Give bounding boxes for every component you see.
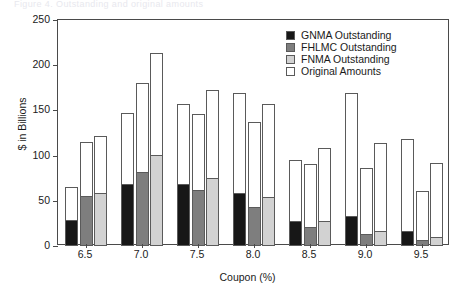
legend-item-orig: Original Amounts	[286, 66, 452, 78]
bar-fill-outstanding	[81, 196, 92, 245]
legend-item-gnma: GNMA Outstanding	[286, 29, 452, 41]
bar-fnma-7.0	[150, 53, 163, 246]
bar-fill-outstanding	[193, 190, 204, 245]
chart-legend: GNMA OutstandingFHLMC OutstandingFNMA Ou…	[286, 29, 452, 78]
bar-fill-outstanding	[178, 184, 189, 245]
x-axis-label: Coupon (%)	[45, 271, 450, 283]
bar-gnma-8.0	[233, 93, 246, 246]
bar-gnma-9.5	[401, 139, 414, 246]
bar-fill-outstanding	[122, 184, 133, 245]
y-axis-tick	[53, 156, 58, 157]
legend-swatch-icon	[286, 43, 295, 52]
bar-gnma-6.5	[65, 187, 78, 246]
bar-fill-outstanding	[346, 216, 357, 245]
legend-item-label: Original Amounts	[301, 66, 381, 77]
bar-fill-outstanding	[249, 207, 260, 245]
bar-fhlmc-6.5	[80, 142, 93, 246]
x-axis-tick-label: 8.5	[286, 249, 332, 260]
legend-item-label: FNMA Outstanding	[301, 54, 390, 65]
x-axis-tick-label: 9.5	[398, 249, 444, 260]
bar-fnma-9.0	[374, 143, 387, 246]
bar-fill-outstanding	[375, 231, 386, 245]
bar-fill-outstanding	[305, 227, 316, 245]
bar-fhlmc-7.5	[192, 114, 205, 246]
y-axis-label: $ in Billions	[16, 59, 28, 189]
legend-item-label: FHLMC Outstanding	[301, 42, 397, 53]
bar-gnma-7.5	[177, 104, 190, 246]
legend-swatch-icon	[286, 31, 295, 40]
bar-fill-outstanding	[431, 237, 442, 245]
bar-fhlmc-9.5	[416, 191, 429, 246]
y-axis-tick-label: 100	[8, 150, 50, 160]
y-axis-tick	[53, 246, 58, 247]
x-axis-tick-label: 7.0	[118, 249, 164, 260]
bar-chart-figure: Figure 4. Outstanding and original amoun…	[0, 0, 456, 293]
y-axis-tick	[53, 110, 58, 111]
bar-fhlmc-9.0	[360, 168, 373, 246]
bar-fnma-7.5	[206, 90, 219, 246]
bar-fnma-6.5	[94, 136, 107, 246]
bar-fnma-9.5	[430, 163, 443, 246]
x-axis-tick-label: 6.5	[62, 249, 108, 260]
y-axis-tick-label: 150	[8, 104, 50, 114]
bar-gnma-8.5	[289, 160, 302, 246]
bar-fill-outstanding	[95, 193, 106, 245]
bar-fnma-8.5	[318, 148, 331, 246]
bar-fhlmc-7.0	[136, 83, 149, 246]
bar-fnma-8.0	[262, 104, 275, 246]
y-axis-tick-label: 250	[8, 14, 50, 24]
bar-fill-outstanding	[263, 197, 274, 245]
bar-fhlmc-8.5	[304, 164, 317, 246]
bar-fill-outstanding	[319, 221, 330, 245]
y-axis-tick-label: 50	[8, 195, 50, 205]
x-axis-tick-label: 9.0	[342, 249, 388, 260]
bar-fill-outstanding	[234, 193, 245, 245]
bar-fill-outstanding	[151, 155, 162, 245]
x-axis-tick-label: 7.5	[174, 249, 220, 260]
legend-item-fhlmc: FHLMC Outstanding	[286, 41, 452, 53]
bar-fill-outstanding	[402, 231, 413, 245]
legend-item-fnma: FNMA Outstanding	[286, 53, 452, 65]
y-axis-tick	[53, 65, 58, 66]
bar-fill-outstanding	[66, 220, 77, 245]
y-axis-tick-label: 0	[8, 240, 50, 250]
x-axis-tick-label: 8.0	[230, 249, 276, 260]
y-axis-tick	[53, 20, 58, 21]
y-axis-tick	[53, 201, 58, 202]
y-axis-tick-label: 200	[8, 59, 50, 69]
bar-fill-outstanding	[207, 178, 218, 245]
legend-item-label: GNMA Outstanding	[301, 30, 391, 41]
legend-swatch-icon	[286, 67, 295, 76]
clipped-figure-title: Figure 4. Outstanding and original amoun…	[14, 0, 274, 9]
legend-swatch-icon	[286, 55, 295, 64]
bar-gnma-9.0	[345, 93, 358, 246]
bar-gnma-7.0	[121, 113, 134, 246]
bar-fhlmc-8.0	[248, 122, 261, 246]
bar-fill-outstanding	[137, 172, 148, 245]
bar-fill-outstanding	[290, 221, 301, 245]
